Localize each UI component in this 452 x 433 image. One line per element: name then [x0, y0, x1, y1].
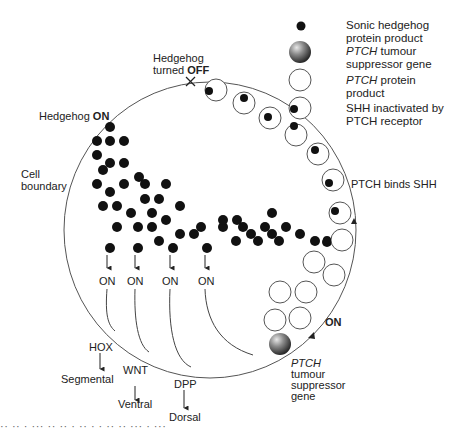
target-outcome-dorsal: Dorsal — [169, 411, 201, 423]
legend-line: product — [346, 87, 416, 100]
label-line: turned OFF — [153, 64, 209, 76]
legend-line: PTCH receptor — [346, 115, 444, 128]
signal-pathways — [106, 289, 253, 367]
on-label-4: ON — [198, 275, 215, 287]
on-label-3: ON — [162, 275, 179, 287]
hedgehog-on-label: Hedgehog ON — [39, 110, 109, 122]
target-gene-dpp: DPP — [174, 378, 197, 390]
legend-item-shh: Sonic hedgehog protein product — [346, 19, 429, 44]
legend-item-shh-inactivated: SHH inactivated by PTCH receptor — [346, 102, 444, 127]
legend-sphere-icon — [289, 41, 311, 63]
shh-dot-near-ptch — [323, 236, 331, 244]
legend-item-ptch-gene: PTCH tumour suppressor gene — [346, 45, 432, 70]
legend-icons — [289, 22, 311, 120]
ptch-shh-complexes — [205, 79, 351, 224]
on-label-2: ON — [127, 275, 144, 287]
caption-fragment: ·· ·· · ··· ·· ·· · ·· · · ·· ·· ··· · ·… — [0, 426, 166, 432]
ptch-binds-shh-label: PTCH binds SHH — [351, 178, 437, 190]
off-x-marker-icon — [186, 77, 195, 86]
target-outcome-segmental: Segmental — [61, 373, 114, 385]
label-line: Cell — [21, 168, 67, 180]
legend-line: PTCH tumour — [346, 45, 432, 58]
label-line: Hedgehog — [153, 52, 209, 64]
hedgehog-off-label: Hedgehog turned OFF — [153, 52, 209, 76]
ptch-gene-sphere-icon — [269, 333, 291, 355]
legend-line: SHH inactivated by — [346, 102, 444, 115]
ptch-gene-label: PTCH tumour suppressor gene — [291, 358, 345, 402]
legend-shh-dot-icon — [297, 22, 306, 31]
target-gene-hox: HOX — [89, 341, 113, 353]
ptch-on-label: ON — [325, 316, 342, 328]
legend-item-ptch-protein: PTCH protein product — [346, 74, 416, 99]
on-label-1: ON — [99, 275, 116, 287]
legend-line: suppressor gene — [346, 58, 432, 71]
target-gene-wnt: WNT — [123, 364, 148, 376]
diagram-canvas: Sonic hedgehog protein product PTCH tumo… — [0, 0, 452, 433]
legend-line: protein product — [346, 32, 429, 45]
legend-line: Sonic hedgehog — [346, 19, 429, 32]
legend-line: PTCH protein — [346, 74, 416, 87]
target-outcome-ventral: Ventral — [118, 398, 152, 410]
legend-open-circle-icon — [289, 69, 311, 91]
cut-off-caption: ·· ·· · ··· ·· ·· · ·· · · ·· ·· ··· · ·… — [0, 426, 230, 433]
label-line: gene — [291, 391, 345, 402]
label-line: boundary — [21, 180, 67, 192]
cell-boundary-label: Cell boundary — [21, 168, 67, 192]
on-arrows — [107, 255, 205, 268]
